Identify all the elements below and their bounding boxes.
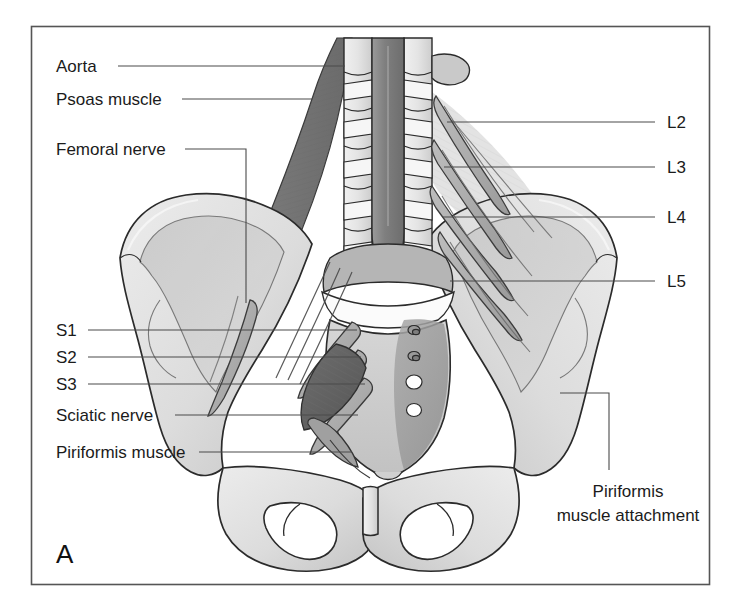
- label-femoral-nerve: Femoral nerve: [56, 140, 166, 159]
- caption-line-1: Piriformis: [593, 482, 664, 501]
- label-sciatic-nerve: Sciatic nerve: [56, 406, 153, 425]
- aorta: [372, 38, 404, 276]
- label-l3: L3: [667, 158, 686, 177]
- label-l4: L4: [667, 208, 686, 227]
- panel-label: A: [56, 539, 74, 569]
- label-s1: S1: [56, 321, 77, 340]
- caption-line-2: muscle attachment: [557, 506, 700, 525]
- label-s3: S3: [56, 375, 77, 394]
- label-l5: L5: [667, 272, 686, 291]
- pubic-symphysis: [363, 487, 378, 536]
- pelvis-lumbosacral-plexus-illustration: Aorta Psoas muscle Femoral nerve S1 S2 S…: [0, 0, 737, 606]
- label-s2: S2: [56, 348, 77, 367]
- label-l2: L2: [667, 113, 686, 132]
- label-aorta: Aorta: [56, 57, 97, 76]
- anatomical-figure-panel: Aorta Psoas muscle Femoral nerve S1 S2 S…: [0, 0, 737, 606]
- label-piriformis-muscle: Piriformis muscle: [56, 443, 185, 462]
- label-psoas-muscle: Psoas muscle: [56, 90, 162, 109]
